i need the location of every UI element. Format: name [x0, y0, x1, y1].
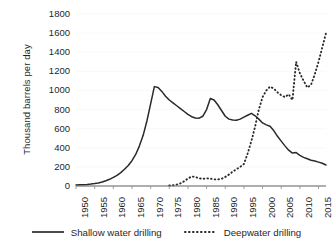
y-axis-tick-600: 600: [54, 124, 70, 134]
x-axis-tick-1975: 1975: [173, 197, 183, 218]
plot-svg: [76, 14, 326, 186]
x-axis-tick-2010: 2010: [304, 197, 314, 218]
y-axis-tick-400: 400: [54, 143, 70, 153]
y-axis-tick-200: 200: [54, 162, 70, 172]
solid-line-swatch-icon: [31, 228, 65, 236]
x-axis-tick-1965: 1965: [136, 197, 146, 218]
dotted-line-swatch-icon: [184, 228, 218, 236]
series-line-shallow-water-drilling: [76, 87, 326, 185]
legend-label-shallow-water-drilling: Shallow water drilling: [71, 227, 162, 238]
x-axis-tick-1985: 1985: [211, 197, 221, 218]
y-axis-tick-1600: 1600: [49, 28, 70, 38]
x-axis-tick-1955: 1955: [99, 197, 109, 218]
y-axis-tick-1400: 1400: [49, 47, 70, 57]
y-axis-tick-1200: 1200: [49, 66, 70, 76]
x-axis-tick-1970: 1970: [155, 197, 165, 218]
legend-item-shallow-water-drilling: Shallow water drilling: [31, 227, 162, 238]
legend-label-deepwater-drilling: Deepwater drilling: [224, 227, 302, 238]
chart-legend: Shallow water drilling Deepwater drillin…: [0, 222, 332, 242]
y-axis-tick-1800: 1800: [49, 9, 70, 19]
x-axis-tick-1980: 1980: [192, 197, 202, 218]
y-axis-tick-1000: 1000: [49, 85, 70, 95]
gridlines: [76, 14, 326, 167]
legend-item-deepwater-drilling: Deepwater drilling: [184, 227, 302, 238]
x-axis-tick-labels: 1950195519601965197019751980198519901995…: [0, 188, 332, 222]
chart-container: Thousand barrels per day 020040060080010…: [0, 0, 332, 245]
x-axis-tick-1950: 1950: [80, 197, 90, 218]
x-axis-tick-2015: 2015: [323, 197, 332, 218]
x-axis-tick-1995: 1995: [248, 197, 258, 218]
x-axis-tick-2005: 2005: [285, 197, 295, 218]
x-axis-tick-1990: 1990: [229, 197, 239, 218]
y-axis-tick-800: 800: [54, 105, 70, 115]
x-axis-tick-1960: 1960: [117, 197, 127, 218]
plot-area: [76, 14, 326, 186]
x-axis-tick-2000: 2000: [267, 197, 277, 218]
